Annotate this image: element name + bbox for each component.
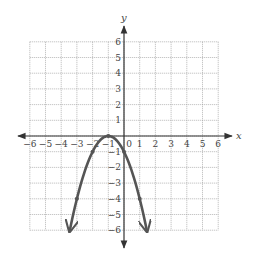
y-tick-label: 5 xyxy=(115,53,121,63)
x-tick-label: −6 xyxy=(23,139,37,149)
x-tick-label: −5 xyxy=(39,139,53,149)
x-tick-label: 1 xyxy=(137,139,143,149)
y-tick-label: 1 xyxy=(115,115,121,125)
y-tick-label: 6 xyxy=(115,37,121,47)
y-axis-label: y xyxy=(120,12,127,23)
y-tick-label: 2 xyxy=(115,100,121,110)
coordinate-plane: −6−5−4−3−2−10123456−6−5−4−3−2−1123456 x … xyxy=(0,0,253,259)
x-tick-label: 4 xyxy=(184,139,190,149)
x-tick-label: 2 xyxy=(153,139,159,149)
y-tick-label: −3 xyxy=(108,178,122,188)
y-tick-label: −4 xyxy=(108,194,122,204)
x-tick-label: −3 xyxy=(70,139,84,149)
data-point xyxy=(106,134,110,138)
x-tick-label: 0 xyxy=(126,139,132,149)
x-axis-label: x xyxy=(236,130,242,141)
data-point xyxy=(91,150,95,154)
y-tick-label: −5 xyxy=(108,210,122,220)
data-point xyxy=(75,197,79,201)
x-tick-label: 5 xyxy=(200,139,206,149)
y-tick-label: 4 xyxy=(115,68,121,78)
x-tick-label: −4 xyxy=(55,139,69,149)
data-point xyxy=(122,150,126,154)
y-tick-label: 3 xyxy=(115,84,121,94)
x-tick-label: 3 xyxy=(168,139,174,149)
x-tick-label: 6 xyxy=(215,139,221,149)
y-tick-label: −1 xyxy=(108,147,121,157)
y-tick-label: −6 xyxy=(108,225,122,235)
data-point xyxy=(138,197,142,201)
y-tick-label: −2 xyxy=(108,162,121,172)
